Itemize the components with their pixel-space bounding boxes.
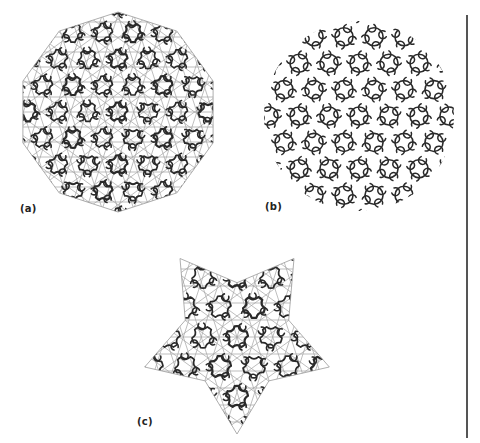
panel-c-label: (c) [137, 416, 153, 427]
panel-c-pentagram-tiling [120, 225, 360, 440]
decagon-tiling-graphic [0, 0, 240, 215]
panel-b-circular-tiling [250, 0, 465, 220]
pentagram-tiling-graphic [120, 225, 360, 440]
vertical-divider-line [466, 15, 468, 438]
panel-a-decagon-tiling [0, 0, 240, 215]
circular-curve-pattern-graphic [250, 0, 465, 220]
panel-a-label: (a) [20, 203, 37, 214]
panel-b-label: (b) [265, 201, 282, 212]
